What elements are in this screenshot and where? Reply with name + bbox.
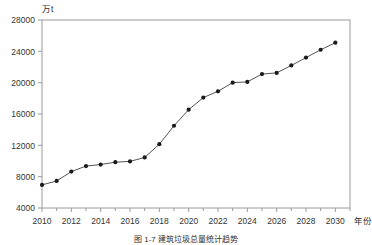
data-point-marker: [245, 80, 249, 84]
y-axis-tick-label: 16000: [11, 109, 35, 119]
y-axis-tick-label: 24000: [11, 47, 35, 57]
figure-container: 万t 4000800012000160002000024000280002010…: [0, 0, 372, 245]
x-axis-tick-label: 2024: [238, 216, 257, 226]
x-axis-tick-label: 2020: [179, 216, 198, 226]
data-point-marker: [289, 63, 293, 67]
data-point-marker: [231, 81, 235, 85]
data-point-marker: [128, 159, 132, 163]
x-axis-tick-label: 2022: [209, 216, 228, 226]
data-point-marker: [275, 71, 279, 75]
data-point-marker: [260, 72, 264, 76]
y-axis-tick-label: 4000: [16, 203, 35, 213]
data-point-marker: [143, 155, 147, 159]
x-axis-tick-label: 2010: [33, 216, 52, 226]
plot-frame: [42, 20, 350, 208]
data-point-marker: [40, 183, 44, 187]
y-axis-tick-label: 28000: [11, 15, 35, 25]
chart-plot-area: 4000800012000160002000024000280002010201…: [0, 0, 372, 232]
line-chart: 4000800012000160002000024000280002010201…: [0, 0, 372, 232]
data-point-marker: [99, 162, 103, 166]
x-axis-tick-label: 2016: [121, 216, 140, 226]
y-axis-tick-label: 12000: [11, 141, 35, 151]
data-point-marker: [187, 108, 191, 112]
x-axis-tick-label: 2026: [267, 216, 286, 226]
figure-caption: 图 1-7 建筑垃圾总量统计趋势: [0, 233, 372, 244]
data-point-marker: [201, 95, 205, 99]
y-axis-tick-label: 20000: [11, 78, 35, 88]
data-point-marker: [319, 48, 323, 52]
data-point-marker: [84, 164, 88, 168]
data-point-marker: [304, 56, 308, 60]
data-point-marker: [55, 179, 59, 183]
data-point-marker: [172, 124, 176, 128]
x-axis-name: 年份: [354, 216, 372, 226]
data-point-marker: [113, 160, 117, 164]
x-axis-tick-label: 2028: [297, 216, 316, 226]
x-axis-tick-label: 2012: [62, 216, 81, 226]
data-point-marker: [69, 169, 73, 173]
data-point-marker: [157, 142, 161, 146]
data-point-marker: [333, 41, 337, 45]
x-axis-tick-label: 2018: [150, 216, 169, 226]
y-axis-tick-label: 8000: [16, 172, 35, 182]
x-axis-tick-label: 2030: [326, 216, 345, 226]
data-point-marker: [216, 89, 220, 93]
x-axis-tick-label: 2014: [91, 216, 110, 226]
